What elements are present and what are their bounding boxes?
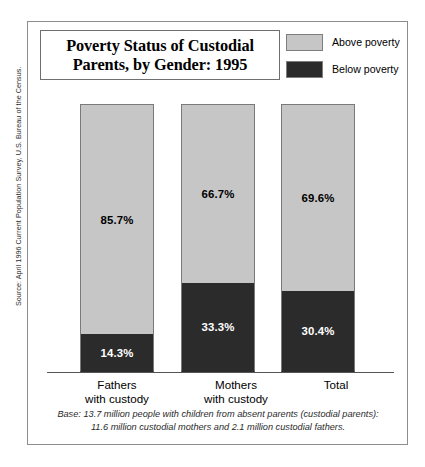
source-credit: Source: April 1996 Current Population Su… — [0, 0, 20, 467]
bar-group-fathers: 85.7%14.3% — [80, 104, 154, 372]
bar-segment-below-poverty-mothers: 33.3% — [181, 283, 255, 372]
chart-footnote: Base: 13.7 million people with children … — [38, 408, 398, 433]
bar-segment-above-poverty-fathers: 85.7% — [80, 104, 154, 334]
bar-segment-below-poverty-fathers: 14.3% — [80, 334, 154, 372]
bar-value-above-poverty-mothers: 66.7% — [202, 188, 235, 200]
chart-footnote-line-1: Base: 13.7 million people with children … — [38, 408, 398, 421]
category-label-fathers: Fathers with custody — [62, 378, 172, 406]
x-axis-baseline — [47, 372, 394, 373]
bar-value-above-poverty-fathers: 85.7% — [101, 214, 134, 226]
category-label-mothers: Mothers with custody — [181, 378, 291, 406]
bar-value-above-poverty-total: 69.6% — [302, 192, 335, 204]
bar-value-below-poverty-fathers: 14.3% — [101, 347, 134, 359]
category-label-fathers-line-1: Fathers — [62, 378, 172, 392]
category-label-mothers-line-2: with custody — [181, 392, 291, 406]
chart-figure-frame: Poverty Status of Custodial Parents, by … — [27, 21, 408, 445]
bar-group-mothers: 66.7%33.3% — [181, 104, 255, 372]
chart-plot-area: Fathers with custody Mothers with custod… — [28, 22, 409, 446]
source-credit-text: Source: April 1996 Current Population Su… — [14, 67, 23, 387]
category-label-fathers-line-2: with custody — [62, 392, 172, 406]
chart-footnote-line-2: 11.6 million custodial mothers and 2.1 m… — [38, 421, 398, 434]
bar-group-total: 69.6%30.4% — [281, 104, 355, 372]
bar-value-below-poverty-mothers: 33.3% — [202, 321, 235, 333]
category-label-mothers-line-1: Mothers — [181, 378, 291, 392]
bar-segment-below-poverty-total: 30.4% — [281, 291, 355, 372]
category-label-total: Total — [281, 378, 391, 392]
bar-segment-above-poverty-total: 69.6% — [281, 104, 355, 291]
bar-value-below-poverty-total: 30.4% — [302, 325, 335, 337]
bar-segment-above-poverty-mothers: 66.7% — [181, 104, 255, 283]
category-label-total-line-1: Total — [281, 378, 391, 392]
